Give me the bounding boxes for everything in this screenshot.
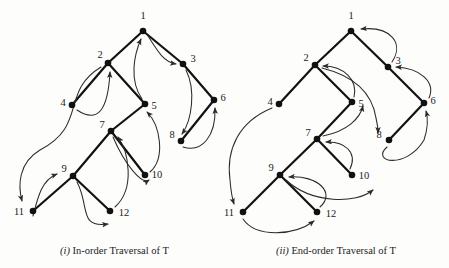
node-label-12: 12 [326, 208, 337, 219]
node-label-3: 3 [395, 55, 400, 66]
arc-12-to-7 [115, 137, 128, 207]
arc-8-to-6 [183, 108, 215, 148]
edge-3-6 [183, 64, 214, 100]
node-11[interactable] [30, 208, 37, 215]
node-8[interactable] [386, 137, 393, 144]
edge-7-9 [73, 131, 111, 176]
node-label-8: 8 [376, 129, 381, 140]
node-6[interactable] [421, 100, 428, 107]
node-6[interactable] [211, 97, 218, 104]
node-label-1: 1 [140, 10, 145, 21]
node-label-7: 7 [99, 119, 104, 130]
edge-2-4 [279, 65, 315, 104]
arc-3-to-8 [182, 70, 192, 134]
node-5[interactable] [349, 99, 356, 106]
node-7[interactable] [314, 136, 321, 143]
node-label-10: 10 [359, 170, 370, 181]
caption-in-order: (i) In-order Traversal of T [60, 245, 169, 256]
node-4[interactable] [69, 102, 76, 109]
edge-1-3 [351, 31, 388, 67]
node-1[interactable] [348, 28, 355, 35]
tree-edges-left [33, 31, 214, 211]
tree-node-labels-left: 1 2 3 4 5 6 7 8 9 10 11 12 [14, 10, 226, 218]
panel-in-order-tree: 1 2 3 4 5 6 7 8 9 10 11 12 [14, 10, 226, 224]
arc-11-to-9 [33, 174, 57, 216]
arc-9-to-10 [286, 180, 373, 199]
node-label-6: 6 [220, 92, 225, 103]
arc-10-to-7 [326, 142, 352, 169]
arc-5-to-2 [323, 66, 355, 97]
arc-5-to-1 [134, 39, 142, 99]
node-9[interactable] [70, 173, 77, 180]
arc-10-to-5 [147, 112, 160, 172]
edge-9-11 [243, 175, 280, 212]
node-3[interactable] [180, 61, 187, 68]
edge-5-7 [111, 104, 145, 131]
node-label-7: 7 [305, 127, 310, 138]
node-10[interactable] [349, 172, 356, 179]
caption-text-in-order: In-order Traversal of T [70, 245, 169, 256]
traversal-figure: 1 2 3 4 5 6 7 8 9 10 11 12 [0, 0, 449, 268]
node-label-9: 9 [268, 162, 273, 173]
caption-end-order: (ii) End-order Traversal of T [276, 245, 396, 256]
node-label-1: 1 [348, 10, 353, 21]
node-4[interactable] [276, 101, 283, 108]
edge-7-9 [280, 139, 317, 175]
caption-marker-in-order: (i) [60, 245, 70, 256]
arc-2-to-11 [20, 67, 101, 201]
node-label-11: 11 [14, 206, 24, 217]
node-9[interactable] [277, 172, 284, 179]
node-label-5: 5 [151, 100, 156, 111]
node-label-9: 9 [61, 163, 66, 174]
node-label-4: 4 [267, 96, 273, 107]
node-label-6: 6 [430, 95, 435, 106]
edge-9-12 [280, 175, 317, 212]
node-2[interactable] [312, 62, 319, 69]
node-2[interactable] [105, 60, 112, 67]
edge-9-12 [73, 176, 110, 211]
node-7[interactable] [108, 128, 115, 135]
node-8[interactable] [178, 138, 185, 145]
node-12[interactable] [314, 209, 321, 216]
node-label-4: 4 [60, 97, 66, 108]
node-label-3: 3 [190, 53, 195, 64]
tree-node-labels-right: 1 2 3 4 5 6 7 8 9 10 11 12 [224, 10, 436, 219]
node-label-10: 10 [152, 169, 163, 180]
edge-9-11 [33, 176, 73, 211]
node-10[interactable] [142, 172, 149, 179]
node-3[interactable] [385, 64, 392, 71]
node-label-2: 2 [303, 52, 308, 63]
node-1[interactable] [140, 28, 147, 35]
edge-2-5 [108, 63, 145, 104]
edge-7-10 [317, 139, 352, 175]
arc-11-to-12 [243, 219, 314, 233]
node-label-11: 11 [224, 207, 234, 218]
edge-1-3 [143, 31, 183, 64]
node-11[interactable] [240, 209, 247, 216]
node-label-2: 2 [97, 49, 102, 60]
edge-6-8 [389, 103, 424, 140]
caption-marker-end-order: (ii) [276, 245, 289, 256]
edge-2-5 [315, 65, 352, 102]
arc-8-to-6 [383, 111, 428, 160]
edge-6-8 [181, 100, 214, 141]
arc-1-to-3 [148, 36, 176, 64]
edge-2-4 [72, 63, 108, 105]
edge-1-2 [315, 31, 351, 65]
node-label-8: 8 [169, 129, 174, 140]
node-12[interactable] [107, 208, 114, 215]
panel-end-order-tree: 1 2 3 4 5 6 7 8 9 10 11 12 [224, 10, 436, 233]
node-label-5: 5 [358, 98, 363, 109]
edge-5-7 [317, 102, 352, 139]
node-label-12: 12 [119, 207, 130, 218]
node-5[interactable] [142, 101, 149, 108]
caption-text-end-order: End-order Traversal of T [289, 245, 396, 256]
traversal-diagram-svg: 1 2 3 4 5 6 7 8 9 10 11 12 [0, 0, 449, 268]
